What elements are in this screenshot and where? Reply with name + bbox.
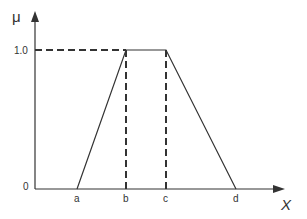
y-axis-arrow-icon bbox=[31, 11, 39, 22]
membership-diagram: μ 1.0 0 a b c d X bbox=[0, 0, 307, 219]
x-point-a: a bbox=[74, 193, 80, 204]
x-axis-arrow-icon bbox=[273, 185, 285, 193]
y-tick-0: 0 bbox=[23, 181, 29, 192]
x-point-b: b bbox=[123, 193, 129, 204]
x-point-c: c bbox=[163, 193, 168, 204]
y-axis-label: μ bbox=[12, 8, 21, 25]
trapezoid-membership-curve bbox=[77, 50, 236, 189]
x-point-d: d bbox=[233, 193, 239, 204]
y-tick-1: 1.0 bbox=[14, 45, 28, 56]
x-axis-label: X bbox=[280, 196, 292, 213]
